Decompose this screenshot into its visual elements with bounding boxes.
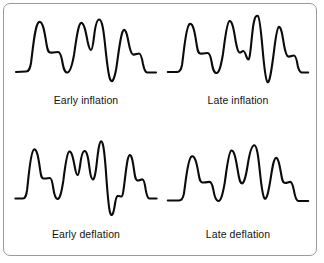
waveform-icon xyxy=(12,8,160,88)
late-deflation-trace xyxy=(168,145,308,201)
late-inflation-trace xyxy=(168,16,308,82)
waveform-icon xyxy=(12,132,160,220)
caption-late-inflation: Late inflation xyxy=(164,94,312,106)
late-inflation-trace-svg xyxy=(164,8,312,88)
panel-early-inflation: Early inflation xyxy=(12,8,160,126)
late-deflation-trace-svg xyxy=(164,132,312,220)
caption-early-deflation: Early deflation xyxy=(12,228,160,240)
caption-late-deflation: Late deflation xyxy=(164,228,312,240)
early-deflation-trace xyxy=(15,141,156,215)
caption-early-inflation: Early inflation xyxy=(12,94,160,106)
waveform-icon xyxy=(164,132,312,220)
early-inflation-trace xyxy=(16,19,156,81)
panel-late-deflation: Late deflation xyxy=(164,132,312,254)
panel-late-inflation: Late inflation xyxy=(164,8,312,126)
figure-panel: Early inflation Late inflation Early def… xyxy=(3,3,317,256)
early-deflation-trace-svg xyxy=(12,132,160,220)
early-inflation-trace-svg xyxy=(12,8,160,88)
waveform-icon xyxy=(164,8,312,88)
panel-early-deflation: Early deflation xyxy=(12,132,160,254)
